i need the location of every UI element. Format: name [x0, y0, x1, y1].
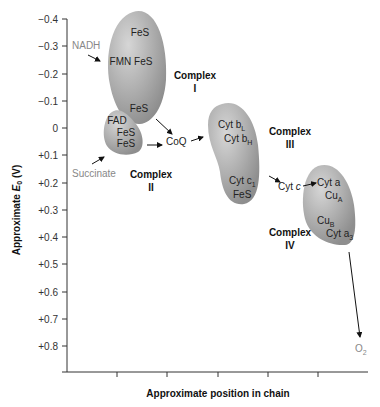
y-tick-label: −0.3	[38, 41, 58, 52]
carrier-fad: FAD	[107, 115, 126, 126]
y-tick-label: +0.7	[38, 314, 58, 325]
y-tick-label: +0.6	[38, 287, 58, 298]
complex-2-label: Complex	[130, 169, 173, 180]
carrier-fes: FeS	[117, 127, 136, 138]
y-axis-title: Approximate E0 (V)	[11, 165, 23, 256]
cytc-label: Cyt c	[278, 181, 301, 192]
y-tick-label: +0.5	[38, 259, 58, 270]
electron-transport-diagram: −0.4 −0.3 −0.2 −0.1 0 +0.1 +0.2 +0.3 +0.…	[0, 0, 380, 407]
x-axis-title: Approximate position in chain	[146, 388, 289, 399]
succinate-arrow	[92, 157, 104, 164]
complex-4-label: Complex	[269, 227, 312, 238]
y-tick-label: −0.4	[38, 14, 58, 25]
y-tick-label: +0.4	[38, 232, 58, 243]
carrier-fes: FeS	[233, 189, 252, 200]
y-tick-label: +0.2	[38, 178, 58, 189]
y-tick-label: −0.1	[38, 96, 58, 107]
complex1-to-coq-arrow	[156, 119, 172, 134]
carrier-fes: FeS	[130, 103, 149, 114]
o2-label: O2	[355, 343, 367, 356]
y-tick-label: +0.3	[38, 205, 58, 216]
y-tick-label: −0.2	[38, 69, 58, 80]
complex-3-numeral: III	[286, 139, 295, 150]
succinate-label: Succinate	[72, 168, 116, 179]
x-axis: Approximate position in chain	[62, 372, 368, 399]
complex-2-numeral: II	[148, 182, 154, 193]
complex4-to-o2-arrow	[349, 252, 360, 337]
complex-1-label: Complex	[174, 70, 217, 81]
carrier-fmn-fes: FMN FeS	[110, 56, 153, 67]
coq-to-complex3-arrow	[191, 137, 203, 141]
complex-4: Cyt a CuA CuB Cyt a3 Complex IV	[269, 165, 355, 251]
y-ticks	[62, 19, 67, 346]
complex-1-numeral: I	[194, 83, 197, 94]
y-axis: −0.4 −0.3 −0.2 −0.1 0 +0.1 +0.2 +0.3 +0.…	[11, 14, 67, 372]
complex-3-label: Complex	[269, 126, 312, 137]
coq-label: CoQ	[166, 136, 187, 147]
y-tick-label: +0.1	[38, 150, 58, 161]
y-tick-label: +0.8	[38, 341, 58, 352]
nadh-label: NADH	[72, 40, 100, 51]
carrier-cyt-a: Cyt a	[317, 177, 341, 188]
carrier-fes: FeS	[131, 27, 150, 38]
complex-4-numeral: IV	[285, 240, 295, 251]
nadh-arrow	[88, 55, 100, 61]
complex-1: FeS FMN FeS FeS Complex I	[108, 11, 216, 124]
carrier-fes: FeS	[117, 138, 136, 149]
y-tick-label: 0	[52, 123, 58, 134]
